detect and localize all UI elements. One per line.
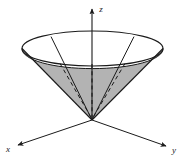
x-axis-label: x bbox=[5, 144, 10, 154]
x-axis bbox=[18, 120, 92, 145]
cone-figure-svg: z x y bbox=[0, 0, 184, 163]
cone-figure: z x y bbox=[0, 0, 184, 163]
y-axis-label: y bbox=[171, 145, 176, 155]
y-axis bbox=[92, 120, 166, 146]
z-axis-label: z bbox=[98, 4, 103, 14]
